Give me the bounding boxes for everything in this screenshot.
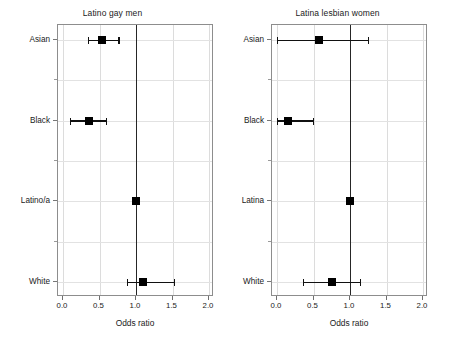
reference-line — [350, 25, 351, 295]
x-axis-tick — [386, 296, 387, 300]
odds-ratio-marker — [315, 36, 323, 44]
y-axis-tick — [267, 120, 271, 121]
y-axis-label-asian: Asian — [244, 35, 264, 44]
x-axis-tick — [276, 296, 277, 300]
y-axis-tick — [53, 200, 57, 201]
odds-ratio-marker — [139, 278, 147, 286]
y-axis-tick-minor — [268, 160, 271, 161]
reference-line — [136, 25, 137, 295]
ci-cap-upper — [118, 37, 119, 44]
ci-cap-upper — [360, 279, 361, 286]
x-axis-tick-label: 2.0 — [203, 301, 214, 310]
gridline-horizontal-minor — [58, 242, 212, 243]
x-axis-tick-label: 0.0 — [271, 301, 282, 310]
y-axis-label-white: White — [243, 277, 264, 286]
y-axis-label-white: White — [29, 277, 50, 286]
ci-cap-upper — [106, 118, 107, 125]
x-axis-title: Odds ratio — [57, 318, 213, 328]
x-axis-tick — [172, 296, 173, 300]
y-axis-tick — [53, 39, 57, 40]
gridline-vertical — [387, 25, 388, 295]
x-axis-tick — [313, 296, 314, 300]
y-axis-tick — [267, 39, 271, 40]
ci-cap-lower — [127, 279, 128, 286]
gridline-vertical — [100, 25, 101, 295]
x-axis-tick-label: 1.5 — [380, 301, 391, 310]
odds-ratio-marker — [132, 197, 140, 205]
y-axis-label-black: Black — [244, 115, 264, 124]
x-axis-tick-label: 0.5 — [307, 301, 318, 310]
ci-cap-lower — [277, 37, 278, 44]
x-axis-tick-label: 2.0 — [417, 301, 428, 310]
gridline-vertical — [63, 25, 64, 295]
panel-title: Latino gay men — [0, 8, 225, 18]
panel-latino-gay-men: Latino gay men Odds ratio AsianBlackLati… — [0, 0, 225, 339]
y-axis-tick — [53, 281, 57, 282]
y-axis-tick — [267, 281, 271, 282]
odds-ratio-marker — [85, 117, 93, 125]
y-axis-tick — [53, 120, 57, 121]
y-axis-tick-minor — [54, 241, 57, 242]
gridline-horizontal-minor — [272, 161, 426, 162]
forest-plot-figure: Latino gay men Odds ratio AsianBlackLati… — [0, 0, 450, 339]
gridline-vertical — [209, 25, 210, 295]
odds-ratio-marker — [98, 36, 106, 44]
ci-cap-lower — [70, 118, 71, 125]
y-axis-label-latina: Latina — [242, 196, 264, 205]
odds-ratio-marker — [284, 117, 292, 125]
y-axis-tick-minor — [268, 241, 271, 242]
panel-latina-lesbian-women: Latina lesbian women Odds ratio AsianBla… — [225, 0, 450, 339]
y-axis-tick-minor — [268, 79, 271, 80]
x-axis-tick — [208, 296, 209, 300]
gridline-horizontal-minor — [272, 242, 426, 243]
confidence-interval-line — [277, 120, 313, 121]
gridline-vertical — [423, 25, 424, 295]
gridline-horizontal-minor — [58, 161, 212, 162]
ci-cap-lower — [303, 279, 304, 286]
x-axis-tick — [62, 296, 63, 300]
ci-cap-lower — [277, 118, 278, 125]
odds-ratio-marker — [328, 278, 336, 286]
x-axis-tick — [135, 296, 136, 300]
y-axis-label-black: Black — [30, 115, 50, 124]
x-axis-tick — [422, 296, 423, 300]
gridline-vertical — [173, 25, 174, 295]
ci-cap-upper — [368, 37, 369, 44]
odds-ratio-marker — [346, 197, 354, 205]
x-axis-tick — [99, 296, 100, 300]
y-axis-label-latino-a: Latino/a — [21, 196, 50, 205]
confidence-interval-line — [127, 282, 174, 283]
gridline-horizontal-minor — [58, 80, 212, 81]
x-axis-tick-label: 0.0 — [57, 301, 68, 310]
x-axis-title: Odds ratio — [271, 318, 427, 328]
x-axis-tick-label: 1.0 — [344, 301, 355, 310]
x-axis-tick-label: 1.5 — [166, 301, 177, 310]
x-axis-tick — [349, 296, 350, 300]
plot-area — [57, 24, 213, 296]
x-axis-tick-label: 1.0 — [130, 301, 141, 310]
x-axis-tick-label: 0.5 — [93, 301, 104, 310]
y-axis-tick-minor — [54, 160, 57, 161]
ci-cap-upper — [174, 279, 175, 286]
plot-area — [271, 24, 427, 296]
gridline-vertical — [277, 25, 278, 295]
y-axis-tick — [267, 200, 271, 201]
ci-cap-upper — [313, 118, 314, 125]
panel-title: Latina lesbian women — [225, 8, 450, 18]
gridline-vertical — [314, 25, 315, 295]
gridline-horizontal — [58, 40, 212, 41]
y-axis-label-asian: Asian — [30, 35, 50, 44]
y-axis-tick-minor — [54, 79, 57, 80]
ci-cap-lower — [88, 37, 89, 44]
gridline-horizontal-minor — [272, 80, 426, 81]
